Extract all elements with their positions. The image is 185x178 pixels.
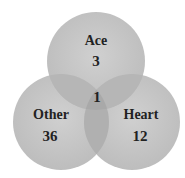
ace-label: Ace bbox=[85, 34, 108, 48]
other-count: 36 bbox=[43, 129, 58, 144]
heart-count: 12 bbox=[133, 129, 148, 144]
other-label: Other bbox=[33, 108, 69, 122]
ace-count: 3 bbox=[92, 54, 100, 69]
intersection-count: 1 bbox=[93, 90, 101, 105]
venn-diagram: Ace 3 1 Other 36 Heart 12 bbox=[0, 0, 185, 178]
heart-label: Heart bbox=[124, 108, 159, 122]
